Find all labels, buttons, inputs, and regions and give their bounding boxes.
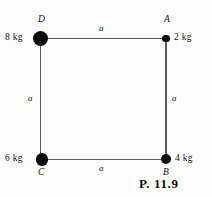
side-length-label-right: a (172, 94, 177, 103)
mass-value-D: 8 kg (5, 33, 23, 43)
mass-node-C (36, 153, 49, 166)
edge-left-DC (40, 38, 42, 159)
side-length-label-bottom: a (99, 164, 104, 173)
mass-node-D (33, 31, 48, 46)
mass-node-A (162, 35, 170, 43)
vertex-label-C: C (38, 168, 45, 178)
mass-node-B (161, 154, 171, 164)
side-length-label-left: a (28, 94, 33, 103)
edge-bottom-CB (41, 159, 166, 161)
side-length-label-top: a (99, 24, 104, 33)
mass-square-diagram: D A C B 8 kg 2 kg 6 kg 4 kg a a a a P. 1… (0, 0, 212, 197)
vertex-label-A: A (164, 15, 170, 25)
edge-top-DA (40, 38, 166, 40)
edge-right-AB (165, 38, 167, 159)
mass-value-B: 4 kg (175, 154, 193, 164)
mass-value-C: 6 kg (5, 154, 23, 164)
figure-caption: P. 11.9 (139, 176, 178, 192)
mass-value-A: 2 kg (174, 33, 192, 43)
vertex-label-D: D (38, 15, 45, 25)
